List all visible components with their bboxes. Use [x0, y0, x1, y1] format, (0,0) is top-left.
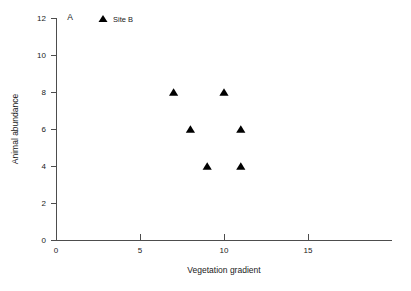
y-axis-tick-labels: 0 2 4 6 8 10 12 — [37, 14, 46, 245]
data-point — [236, 125, 245, 132]
axes-group — [56, 18, 392, 240]
plot-canvas: 0 2 4 6 8 10 12 0 5 10 15 Vegetation gra… — [0, 0, 411, 291]
y-axis-ticks — [51, 18, 56, 240]
x-axis-tick-labels: 0 5 10 15 — [54, 246, 313, 255]
x-axis-ticks — [56, 234, 308, 240]
y-axis-title: Animal abundance — [10, 94, 20, 165]
data-point — [203, 162, 212, 169]
data-point — [186, 125, 195, 132]
y-tick-label-0: 0 — [42, 236, 47, 245]
y-tick-label-2: 2 — [42, 199, 47, 208]
legend-label-site-b: Site B — [113, 15, 133, 24]
y-tick-label-12: 12 — [37, 14, 46, 23]
y-tick-label-6: 6 — [42, 125, 47, 134]
x-tick-label-15: 15 — [304, 246, 313, 255]
y-tick-label-8: 8 — [42, 88, 47, 97]
legend-triangle-icon — [99, 15, 108, 22]
x-axis-title: Vegetation gradient — [187, 265, 261, 275]
x-tick-label-10: 10 — [220, 246, 229, 255]
data-point-group — [169, 88, 245, 169]
panel-label: A — [67, 12, 73, 22]
x-tick-label-0: 0 — [54, 246, 59, 255]
legend: Site B — [99, 15, 134, 24]
scatter-plot-figure: 0 2 4 6 8 10 12 0 5 10 15 Vegetation gra… — [0, 0, 411, 291]
y-tick-label-4: 4 — [42, 162, 47, 171]
y-tick-label-10: 10 — [37, 51, 46, 60]
data-point — [236, 162, 245, 169]
x-tick-label-5: 5 — [138, 246, 143, 255]
data-point — [169, 88, 178, 95]
data-point — [219, 88, 228, 95]
